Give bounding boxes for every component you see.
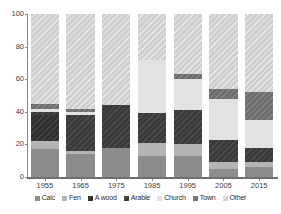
legend-item-a-wood[interactable]: A wood <box>88 194 117 202</box>
bar-column[interactable] <box>138 14 166 177</box>
y-axis-tick-label: 60 <box>0 75 24 83</box>
bar-segment[interactable] <box>31 149 59 177</box>
bar-segment[interactable] <box>138 156 166 177</box>
x-axis-tick-mark <box>223 179 224 181</box>
x-axis-tick-mark <box>152 179 153 181</box>
legend-item-label: A wood <box>95 194 117 202</box>
bar-segment[interactable] <box>102 148 130 177</box>
bar-segment[interactable] <box>174 110 202 144</box>
legend-swatch-fen-icon <box>62 196 67 201</box>
x-axis-tick-mark <box>259 179 260 181</box>
legend-swatch-town-icon <box>193 196 198 201</box>
x-axis-tick-label: 1955 <box>25 181 65 190</box>
x-axis-tick-label: 1965 <box>61 181 101 190</box>
legend-item-label: Fen <box>69 194 81 202</box>
y-axis-tick-label: 40 <box>0 108 24 116</box>
bar-segment[interactable] <box>66 115 94 151</box>
bar-segment[interactable] <box>66 151 94 154</box>
bar-segment[interactable] <box>138 143 166 156</box>
legend-item-label: Other <box>230 194 247 202</box>
bar-column[interactable] <box>66 14 94 177</box>
bar-column[interactable] <box>174 14 202 177</box>
x-axis-tick-label: 2015 <box>239 181 279 190</box>
legend-item-label: Church <box>164 194 186 202</box>
bar-segment[interactable] <box>245 14 273 92</box>
legend-swatch-other-icon <box>223 196 228 201</box>
x-axis-tick-mark <box>116 179 117 181</box>
legend-item-arable[interactable]: Arable <box>124 194 150 202</box>
y-axis-tick-label: 0 <box>0 173 24 181</box>
bar-column[interactable] <box>31 14 59 177</box>
x-axis-tick-label: 1975 <box>96 181 136 190</box>
legend-item-fen[interactable]: Fen <box>62 194 81 202</box>
bar-column[interactable] <box>245 14 273 177</box>
bar-segment[interactable] <box>138 14 166 60</box>
bar-column[interactable] <box>209 14 237 177</box>
legend-item-calc[interactable]: Calc <box>35 194 55 202</box>
bar-segment[interactable] <box>174 14 202 74</box>
bar-segment[interactable] <box>174 144 202 155</box>
x-axis-tick-mark <box>45 179 46 181</box>
bar-segment[interactable] <box>174 74 202 79</box>
bar-segment[interactable] <box>31 104 59 109</box>
legend-item-other[interactable]: Other <box>223 194 247 202</box>
bar-segment[interactable] <box>138 113 166 142</box>
legend-item-church[interactable]: Church <box>157 194 186 202</box>
legend-swatch-church-icon <box>157 196 162 201</box>
bar-segment[interactable] <box>209 169 237 177</box>
legend-item-town[interactable]: Town <box>193 194 216 202</box>
bar-segment[interactable] <box>31 141 59 149</box>
bar-segment[interactable] <box>66 109 94 112</box>
legend-item-label: Calc <box>42 194 55 202</box>
legend-item-label: Arable <box>131 194 150 202</box>
bar-segment[interactable] <box>245 148 273 163</box>
legend-item-label: Town <box>200 194 216 202</box>
bar-segment[interactable] <box>209 140 237 163</box>
legend-swatch-arable-icon <box>124 196 129 201</box>
chart-legend: CalcFenA woodArableChurchTownOther <box>0 194 281 202</box>
bar-segment[interactable] <box>209 162 237 169</box>
y-axis-tick-label: 100 <box>0 10 24 18</box>
x-axis-tick-mark <box>188 179 189 181</box>
stacked-bar-chart: 020406080100 CalcFenA woodArableChurchTo… <box>0 0 281 214</box>
legend-swatch-calc-icon <box>35 196 40 201</box>
y-axis-tick-label: 80 <box>0 43 24 51</box>
bar-column[interactable] <box>102 14 130 177</box>
y-axis-tick-label: 20 <box>0 140 24 148</box>
x-axis-tick-mark <box>81 179 82 181</box>
bar-segment[interactable] <box>102 105 130 147</box>
bar-segment[interactable] <box>245 162 273 167</box>
x-axis-tick-label: 1985 <box>132 181 172 190</box>
legend-swatch-awood-icon <box>88 196 93 201</box>
bar-segment[interactable] <box>31 109 59 112</box>
bar-segment[interactable] <box>245 92 273 120</box>
bar-segment[interactable] <box>245 167 273 177</box>
x-axis-tick-label: 1995 <box>168 181 208 190</box>
bar-segment[interactable] <box>209 99 237 140</box>
bar-segment[interactable] <box>174 156 202 177</box>
bar-segment[interactable] <box>102 14 130 105</box>
bar-segment[interactable] <box>66 112 94 115</box>
bar-segment[interactable] <box>66 154 94 177</box>
bar-segment[interactable] <box>209 14 237 89</box>
bar-segment[interactable] <box>209 89 237 99</box>
x-axis-tick-label: 2005 <box>203 181 243 190</box>
bar-segment[interactable] <box>138 60 166 114</box>
bar-segment[interactable] <box>66 14 94 109</box>
bar-segment[interactable] <box>31 14 59 104</box>
bar-segment[interactable] <box>31 112 59 115</box>
bar-segment[interactable] <box>245 120 273 148</box>
bar-segment[interactable] <box>31 115 59 141</box>
plot-area <box>27 14 277 177</box>
bar-segment[interactable] <box>174 79 202 110</box>
